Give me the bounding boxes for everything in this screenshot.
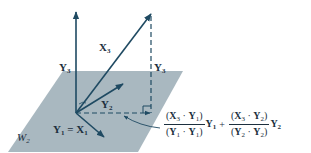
label-y2: Y2	[101, 99, 112, 112]
label-y3-axis: Y3	[59, 62, 70, 75]
label-y1-equals-x1: Y1 = X1	[53, 124, 88, 137]
plane-w2	[8, 71, 183, 152]
vector-term2: Y2	[270, 118, 281, 131]
label-y3-right: Y3	[154, 62, 165, 75]
label-x3: X3	[99, 42, 110, 55]
plus-sign: +	[219, 119, 225, 130]
projection-formula: (X3 · Y1) (Y1 · Y1) Y1 + (X3 · Y2) (Y2 ·…	[163, 110, 281, 139]
fraction-term2: (X3 · Y2) (Y2 · Y2)	[229, 110, 270, 139]
vector-term1: Y1	[206, 118, 217, 131]
label-plane-w2: W2	[17, 132, 30, 145]
fraction-term1: (X3 · Y1) (Y1 · Y1)	[164, 110, 205, 139]
